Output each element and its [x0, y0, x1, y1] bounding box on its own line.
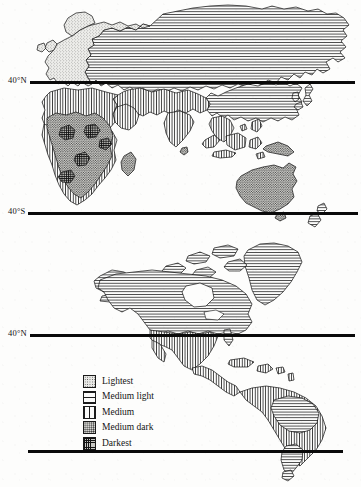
caption-remnant: [4, 475, 204, 485]
region-arctic-islands-1: [186, 252, 210, 264]
region-southern-cone: [281, 444, 303, 475]
region-arctic-islands-2: [212, 245, 238, 258]
latitude-label-40n-south-map: 40°N: [8, 328, 27, 338]
region-north-america: [98, 270, 252, 334]
latitude-line-40s-north-map: [28, 212, 358, 215]
legend-swatch-darkest: [83, 437, 96, 450]
legend-swatch-medium: [83, 406, 96, 419]
legend-item-medium-light: Medium light: [83, 389, 154, 404]
region-hispaniola: [257, 364, 273, 373]
legend-label-medium: Medium: [102, 408, 134, 418]
region-greenland: [244, 243, 302, 305]
legend-label-lightest: Lightest: [102, 377, 133, 387]
region-patagonia-tip: [282, 470, 294, 481]
legend-swatch-lightest: [83, 375, 96, 388]
region-cuba: [228, 358, 254, 367]
region-puerto-rico: [276, 367, 285, 374]
region-central-america: [192, 366, 240, 396]
latitude-line-40n-north-map: [30, 81, 355, 84]
latitude-label-40s-north-map: 40°S: [8, 206, 25, 216]
latitude-label-40n-north-map: 40°N: [8, 75, 27, 85]
latitude-line-40n-south-map: [30, 334, 355, 337]
region-arctic-islands-5: [224, 259, 247, 271]
map-americas: [0, 0, 361, 487]
legend-label-medium-light: Medium light: [102, 392, 154, 402]
legend-item-medium: Medium: [83, 405, 154, 420]
legend-label-darkest: Darkest: [102, 439, 132, 449]
legend-item-lightest: Lightest: [83, 374, 154, 389]
legend-swatch-medium-dark: [83, 421, 96, 434]
latitude-line-40s-south-map: [28, 450, 343, 453]
legend-item-medium-dark: Medium dark: [83, 420, 154, 435]
legend: Lightest Medium light Medium Medium dark…: [83, 374, 154, 451]
figure-canvas: 40°N 40°S 40°N Lightest Medium light Med…: [0, 0, 361, 487]
legend-item-darkest: Darkest: [83, 436, 154, 451]
region-lesser-antilles: [288, 373, 294, 381]
legend-swatch-medium-light: [83, 391, 96, 404]
legend-label-medium-dark: Medium dark: [102, 423, 153, 433]
